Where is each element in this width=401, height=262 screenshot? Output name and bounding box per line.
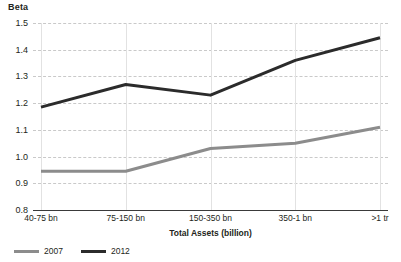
y-axis-tick-label: 1.0	[15, 152, 28, 162]
legend-item-2007: 2007	[14, 246, 63, 256]
beta-vs-total-assets-line-chart: Beta 0.80.91.01.11.21.31.41.5 40-75 bn75…	[0, 0, 401, 262]
x-axis-tick-label: 40-75 bn	[24, 213, 58, 223]
y-axis-tick-label: 0.9	[15, 178, 28, 188]
x-axis-tick-label: 75-150 bn	[107, 213, 145, 223]
x-axis-title: Total Assets (billion)	[33, 228, 388, 238]
chart-legend: 20072012	[14, 246, 130, 256]
x-axis-baseline	[33, 210, 388, 211]
y-axis-tick-label: 1.5	[15, 18, 28, 28]
legend-label: 2007	[44, 246, 63, 256]
y-axis-tick-label: 1.3	[15, 71, 28, 81]
legend-label: 2012	[111, 246, 130, 256]
x-axis-tick-label: 350-1 bn	[278, 213, 312, 223]
x-axis-tick-label: >1 tr	[371, 213, 388, 223]
y-axis-tick-label: 1.4	[15, 45, 28, 55]
plot-area	[33, 23, 388, 210]
series-lines	[33, 23, 388, 210]
y-axis-title: Beta	[8, 2, 28, 12]
legend-swatch-icon	[81, 250, 106, 253]
x-axis-tick-label: 150-350 bn	[189, 213, 232, 223]
legend-item-2012: 2012	[81, 246, 130, 256]
series-line-2007	[41, 127, 380, 171]
y-axis-tick-label: 1.2	[15, 98, 28, 108]
x-axis-tick-labels: 40-75 bn75-150 bn150-350 bn350-1 bn>1 tr	[33, 213, 388, 227]
y-axis-tick-label: 1.1	[15, 125, 28, 135]
legend-swatch-icon	[14, 250, 39, 253]
series-line-2012	[41, 38, 380, 107]
y-axis-tick-labels: 0.80.91.01.11.21.31.41.5	[0, 23, 28, 210]
